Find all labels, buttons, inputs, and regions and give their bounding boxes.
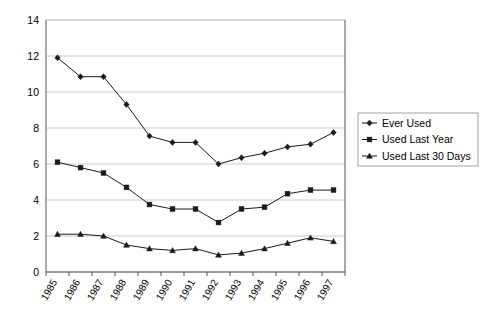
data-point-marker (239, 155, 244, 161)
series-group (55, 55, 337, 257)
data-point-marker (147, 202, 152, 207)
x-tick-label: 1988 (108, 277, 129, 302)
line-chart: 02468101214 1985198619871988198919901991… (0, 0, 482, 317)
series-line (58, 58, 334, 164)
data-point-marker (55, 160, 60, 165)
series-line (58, 234, 334, 255)
data-point-marker (331, 188, 336, 193)
x-tick-label: 1992 (200, 277, 221, 302)
data-point-marker (239, 207, 244, 212)
series-line (58, 162, 334, 222)
data-point-marker (285, 144, 290, 150)
data-point-marker (216, 220, 221, 225)
x-axis-ticks (46, 272, 345, 276)
data-point-marker (367, 137, 372, 142)
y-tick-label: 8 (33, 122, 39, 134)
data-point-marker (78, 165, 83, 170)
data-point-marker (308, 141, 313, 147)
y-tick-label: 12 (27, 50, 39, 62)
x-tick-label: 1997 (315, 277, 336, 302)
data-point-marker (170, 139, 175, 145)
data-point-marker (308, 188, 313, 193)
legend-item-label: Used Last 30 Days (382, 150, 471, 162)
series-3 (55, 231, 337, 257)
x-tick-label: 1994 (246, 277, 267, 302)
data-point-marker (170, 207, 175, 212)
x-tick-label: 1993 (223, 277, 244, 302)
y-tick-label: 6 (33, 158, 39, 170)
x-tick-label: 1989 (131, 277, 152, 302)
y-tick-label: 2 (33, 230, 39, 242)
data-point-marker (262, 205, 267, 210)
x-tick-label: 1987 (85, 277, 106, 302)
chart-canvas: 02468101214 1985198619871988198919901991… (0, 0, 482, 317)
plot-frame (46, 20, 345, 272)
y-axis-tick-labels: 02468101214 (27, 14, 39, 278)
series-2 (55, 160, 336, 225)
legend-item-label: Used Last Year (382, 133, 454, 145)
x-axis-tick-labels: 1985198619871988198919901991199219931994… (39, 277, 336, 302)
x-tick-label: 1995 (269, 277, 290, 302)
legend-item-label: Ever Used (382, 117, 431, 129)
y-tick-label: 10 (27, 86, 39, 98)
x-tick-label: 1991 (177, 277, 198, 302)
legend: Ever UsedUsed Last YearUsed Last 30 Days (358, 113, 478, 166)
data-point-marker (262, 150, 267, 156)
data-point-marker (124, 185, 129, 190)
data-point-marker (331, 130, 336, 136)
data-point-marker (285, 191, 290, 196)
x-tick-label: 1996 (292, 277, 313, 302)
x-tick-label: 1986 (62, 277, 83, 302)
gridlines-group (46, 20, 345, 272)
x-tick-label: 1985 (39, 277, 60, 302)
data-point-marker (101, 171, 106, 176)
y-tick-label: 14 (27, 14, 39, 26)
y-tick-label: 4 (33, 194, 39, 206)
x-tick-label: 1990 (154, 277, 175, 302)
series-1 (55, 55, 336, 167)
y-tick-label: 0 (33, 266, 39, 278)
data-point-marker (193, 207, 198, 212)
